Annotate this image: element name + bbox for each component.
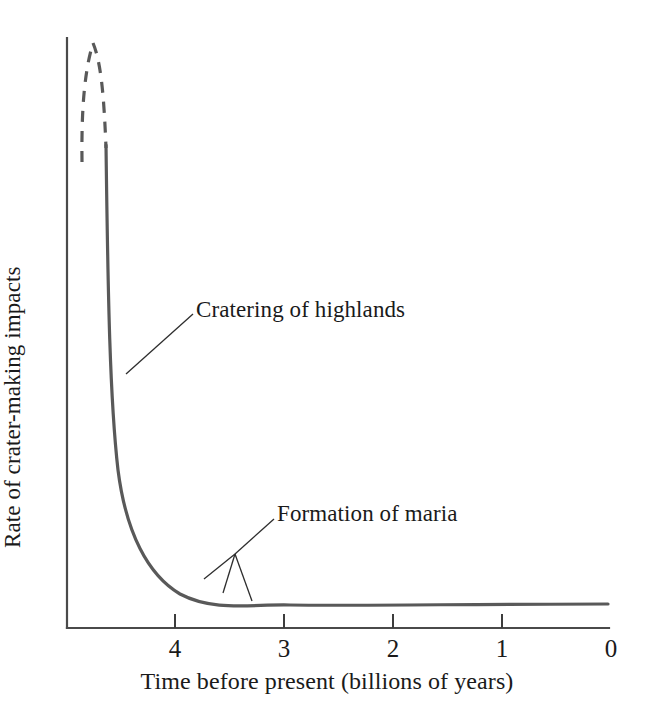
x-tick-label-1: 1 <box>482 636 522 661</box>
chart-plot-area <box>0 0 654 720</box>
leader-line-maria-branch-1 <box>204 554 235 579</box>
impact-rate-chart-figure: 4 3 2 1 0 Time before present (billions … <box>0 0 654 720</box>
x-tick-label-2: 2 <box>373 636 413 661</box>
leader-line-maria-branch-2 <box>223 554 235 593</box>
impact-rate-curve-dashed-right <box>93 43 106 148</box>
leader-line-highlands <box>126 314 193 374</box>
annotation-cratering-of-highlands: Cratering of highlands <box>196 297 405 323</box>
leader-line-maria-branch-3 <box>235 554 252 601</box>
x-tick-label-4: 4 <box>155 636 195 661</box>
x-axis-title: Time before present (billions of years) <box>0 668 654 695</box>
x-tick-label-0: 0 <box>591 636 631 661</box>
y-axis-title: Rate of crater-making impacts <box>0 266 26 548</box>
impact-rate-curve-solid <box>106 145 608 606</box>
annotation-formation-of-maria: Formation of maria <box>277 501 458 527</box>
leader-line-maria-stem <box>235 519 274 554</box>
impact-rate-curve-dashed-left <box>82 43 93 162</box>
x-tick-label-3: 3 <box>264 636 304 661</box>
